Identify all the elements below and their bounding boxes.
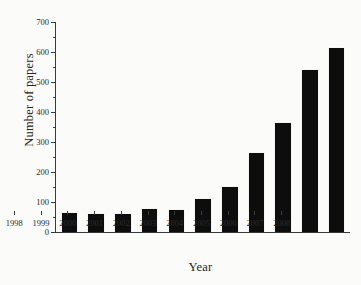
y-tick-mark: [53, 127, 56, 128]
y-tick-label: 300: [36, 137, 49, 147]
bar-slot: [190, 22, 217, 232]
x-tick-2007: 2007: [242, 211, 269, 237]
y-tick-label: 500: [36, 77, 49, 87]
y-tick-mark: [51, 202, 55, 203]
x-tick-mark: [94, 211, 95, 215]
bar-slot: [323, 22, 350, 232]
y-tick-label: 400: [36, 107, 49, 117]
bar-slot: [270, 22, 297, 232]
y-tick-mark: [51, 142, 55, 143]
y-tick-mark: [53, 97, 56, 98]
bar-slot: [163, 22, 190, 232]
bar-slot: [216, 22, 243, 232]
bar-2007: [302, 70, 318, 232]
x-tick-2001: 2001: [81, 211, 108, 237]
y-tick-mark: [53, 187, 56, 188]
bar-slot: [83, 22, 110, 232]
x-tick-2004: 2004: [161, 211, 188, 237]
x-tick-mark: [228, 211, 229, 215]
x-tick-label: 2004: [166, 218, 183, 228]
x-tick-2003: 2003: [135, 211, 162, 237]
x-tick-mark: [201, 211, 202, 215]
x-tick-mark: [254, 211, 255, 215]
x-tick-label: 1998: [6, 218, 23, 228]
x-tick-label: 2001: [86, 218, 103, 228]
y-tick-mark: [51, 82, 55, 83]
bar-series: [56, 22, 350, 232]
x-tick-label: 2000: [59, 218, 76, 228]
x-tick-2000: 2000: [54, 211, 81, 237]
x-tick-label: 2007: [246, 218, 263, 228]
x-tick-mark: [67, 211, 68, 215]
x-axis-title: Year: [48, 260, 353, 275]
y-tick-label: 700: [36, 17, 49, 27]
y-tick-mark: [51, 112, 55, 113]
x-axis-ticks: 1998199920002001200220032004200520062007…: [1, 211, 295, 237]
bar-slot: [56, 22, 83, 232]
x-tick-label: 2008: [273, 218, 290, 228]
x-tick-label: 2003: [140, 218, 157, 228]
x-tick-mark: [14, 211, 15, 215]
y-tick-label: 200: [36, 167, 49, 177]
x-tick-2008: 2008: [268, 211, 295, 237]
y-tick-label: 600: [36, 47, 49, 57]
y-tick-mark: [53, 157, 56, 158]
x-tick-mark: [121, 211, 122, 215]
y-tick-mark: [53, 37, 56, 38]
x-tick-label: 2002: [113, 218, 130, 228]
y-tick-mark: [51, 52, 55, 53]
plot-area: 0100200300400500600700: [55, 22, 350, 232]
bar-slot: [109, 22, 136, 232]
x-tick-2005: 2005: [188, 211, 215, 237]
x-tick-mark: [174, 211, 175, 215]
x-tick-label: 2005: [193, 218, 210, 228]
x-tick-1998: 1998: [1, 211, 28, 237]
x-tick-2006: 2006: [215, 211, 242, 237]
y-tick-mark: [51, 22, 55, 23]
y-tick-mark: [53, 67, 56, 68]
y-tick-label: 100: [36, 197, 49, 207]
x-tick-mark: [41, 211, 42, 215]
x-tick-label: 2006: [220, 218, 237, 228]
bar-2008: [329, 48, 345, 233]
x-tick-1999: 1999: [28, 211, 55, 237]
x-tick-2002: 2002: [108, 211, 135, 237]
bar-slot: [136, 22, 163, 232]
x-tick-mark: [281, 211, 282, 215]
bar-chart-figure: Number of papers 0100200300400500600700 …: [0, 0, 361, 285]
x-tick-mark: [148, 211, 149, 215]
bar-slot: [243, 22, 270, 232]
bar-slot: [297, 22, 324, 232]
y-tick-mark: [51, 172, 55, 173]
x-tick-label: 1999: [33, 218, 50, 228]
